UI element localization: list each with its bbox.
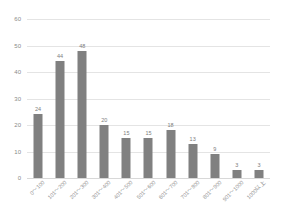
bar-group: 48: [71, 19, 93, 178]
bar-value-label: 20: [101, 118, 107, 124]
bar-group: 20: [93, 19, 115, 178]
x-axis-tick-label: 801～900: [202, 180, 223, 201]
y-axis-tick-label: 0: [18, 175, 21, 181]
bar: [210, 154, 219, 178]
bar-value-label: 13: [190, 137, 196, 143]
x-axis-tick-label: 401～500: [114, 180, 135, 201]
bar-value-label: 15: [145, 131, 151, 137]
bar-value-label: 3: [257, 163, 260, 169]
bar: [122, 138, 131, 178]
bar: [144, 138, 153, 178]
x-axis-tick-label: 601～700: [158, 180, 179, 201]
y-axis-tick-label: 60: [14, 16, 21, 22]
bars-layer: 2444482015151813933: [27, 19, 270, 178]
x-axis-tick-label: 201～300: [69, 180, 90, 201]
bar-value-label: 15: [123, 131, 129, 137]
bar-value-label: 48: [79, 44, 85, 50]
bar-value-label: 9: [213, 147, 216, 153]
x-axis: 0～100101～200201～300301～400401～500501～600…: [27, 180, 270, 222]
x-axis-tick-label: 1000以上: [246, 180, 267, 201]
bar-group: 44: [49, 19, 71, 178]
bar-value-label: 3: [235, 163, 238, 169]
y-axis-tick-label: 30: [14, 96, 21, 102]
x-axis-tick-label: 301～400: [92, 180, 113, 201]
bar: [188, 144, 197, 178]
bar: [232, 170, 241, 178]
bar-group: 13: [182, 19, 204, 178]
bar-chart: 0102030405060 2444482015151813933 0～1001…: [0, 0, 283, 222]
bar-group: 18: [160, 19, 182, 178]
bar-group: 9: [204, 19, 226, 178]
bar-value-label: 18: [168, 123, 174, 129]
bar-group: 3: [226, 19, 248, 178]
bar-value-label: 44: [57, 54, 63, 60]
y-axis-tick-label: 50: [14, 43, 21, 49]
y-axis: 0102030405060: [0, 19, 24, 178]
bar-group: 15: [137, 19, 159, 178]
y-axis-tick-label: 20: [14, 122, 21, 128]
x-axis-tick-label: 901～1000: [222, 180, 245, 203]
bar-group: 24: [27, 19, 49, 178]
x-axis-tick-label: 501～600: [136, 180, 157, 201]
bar: [78, 51, 87, 178]
bar-group: 3: [248, 19, 270, 178]
y-axis-tick-label: 10: [14, 149, 21, 155]
bar: [56, 61, 65, 178]
y-axis-tick-label: 40: [14, 69, 21, 75]
bar-group: 15: [115, 19, 137, 178]
bar: [34, 114, 43, 178]
x-axis-tick-label: 701～800: [180, 180, 201, 201]
bar-value-label: 24: [35, 107, 41, 113]
x-axis-tick-label: 101～200: [47, 180, 68, 201]
x-axis-tick-label: 0～100: [29, 180, 45, 196]
bar: [166, 130, 175, 178]
bar: [100, 125, 109, 178]
bar: [254, 170, 263, 178]
